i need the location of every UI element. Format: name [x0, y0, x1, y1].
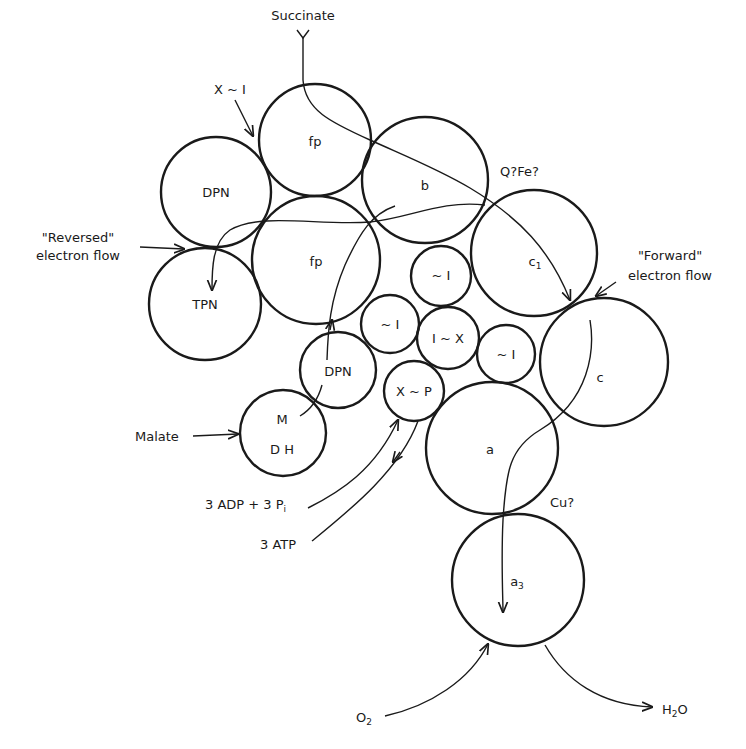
c1-label: c1 — [529, 254, 542, 271]
adp-in-path — [308, 420, 398, 508]
i-right-label: ~ I — [497, 347, 516, 362]
b-label: b — [421, 178, 429, 193]
qfe-label: Q?Fe? — [500, 164, 539, 179]
xp-label: X ~ P — [396, 384, 432, 399]
o2-label: O2 — [356, 710, 372, 727]
forward-arrow — [596, 282, 616, 296]
dpn-lower-label: DPN — [324, 364, 352, 379]
fp-top-label: fp — [309, 134, 322, 149]
mdh-circle — [240, 390, 326, 476]
succinate-fork — [297, 30, 309, 38]
c-to-a3-path — [502, 320, 591, 612]
i-top-label: ~ I — [432, 268, 451, 283]
fp-mid-label: fp — [310, 254, 323, 269]
forward-label-1: "Forward" — [638, 248, 702, 263]
reversed-label-1: "Reversed" — [42, 230, 114, 245]
o2-arrow — [385, 644, 488, 716]
atp-label: 3 ATP — [260, 537, 296, 552]
succinate-label: Succinate — [271, 8, 335, 23]
mdh-top-label: M — [276, 412, 287, 427]
malate-label: Malate — [135, 429, 179, 444]
cu-label: Cu? — [550, 495, 574, 510]
forward-label-2: electron flow — [628, 268, 712, 283]
dpn-left-label: DPN — [202, 185, 230, 200]
h2o-label: H2O — [662, 702, 688, 719]
c-circle — [540, 298, 668, 426]
x-i-label: X ~ I — [214, 82, 246, 97]
i-left-label: ~ I — [381, 317, 400, 332]
electron-transport-diagram: fp DPN b fp TPN c1 ~ I ~ I I ~ X ~ I c D… — [0, 0, 746, 749]
a3-label: a3 — [510, 574, 524, 591]
reversed-arrow — [140, 247, 184, 249]
x-i-arrow — [235, 100, 253, 136]
c-label: c — [596, 370, 603, 385]
adp-label: 3 ADP + 3 Pi — [205, 497, 286, 514]
mdh-bottom-label: D H — [270, 442, 294, 457]
atp-out-path — [312, 421, 418, 541]
reversed-label-2: electron flow — [36, 248, 120, 263]
a-label: a — [486, 442, 494, 457]
ix-label: I ~ X — [432, 331, 464, 346]
tpn-label: TPN — [191, 297, 218, 312]
malate-arrow — [193, 434, 238, 436]
h2o-arrow — [545, 645, 652, 707]
